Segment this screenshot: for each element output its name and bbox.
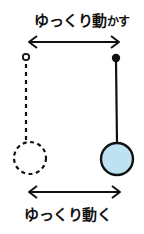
pendulum-diagram bbox=[0, 0, 144, 234]
left-pendulum-dashed bbox=[14, 54, 46, 174]
top-double-arrow-icon bbox=[29, 36, 119, 48]
bottom-double-arrow-icon bbox=[29, 186, 120, 198]
hollow-pivot-icon bbox=[23, 54, 29, 60]
solid-string bbox=[116, 60, 117, 143]
blue-bob-icon bbox=[101, 143, 133, 175]
right-pendulum-solid bbox=[101, 54, 133, 175]
dashed-bob-icon bbox=[14, 142, 46, 174]
bottom-caption: ゆっくり動く bbox=[24, 203, 111, 224]
